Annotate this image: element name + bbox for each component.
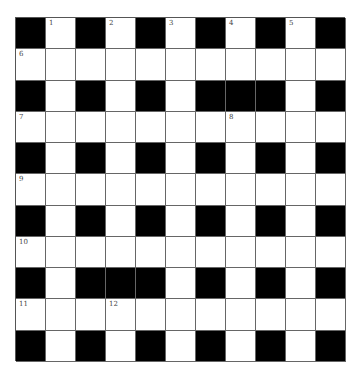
grid-cell[interactable] [316, 174, 346, 205]
grid-cell[interactable] [136, 112, 166, 143]
black-square [76, 18, 106, 49]
grid-cell[interactable] [136, 299, 166, 330]
grid-cell[interactable] [106, 174, 136, 205]
grid-cell[interactable] [166, 206, 196, 237]
clue-number: 10 [19, 239, 28, 246]
grid-cell[interactable] [166, 299, 196, 330]
grid-cell[interactable] [76, 49, 106, 80]
grid-cell[interactable]: 12 [106, 299, 136, 330]
grid-cell[interactable] [226, 49, 256, 80]
grid-cell[interactable]: 2 [106, 18, 136, 49]
grid-cell[interactable] [166, 112, 196, 143]
grid-cell[interactable] [226, 206, 256, 237]
grid-cell[interactable] [46, 237, 76, 268]
grid-cell[interactable] [256, 299, 286, 330]
grid-cell[interactable] [106, 112, 136, 143]
grid-cell[interactable] [46, 331, 76, 362]
grid-cell[interactable] [166, 268, 196, 299]
grid-cell[interactable] [166, 237, 196, 268]
grid-cell[interactable]: 3 [166, 18, 196, 49]
grid-cell[interactable] [46, 143, 76, 174]
grid-cell[interactable] [226, 174, 256, 205]
grid-cell[interactable] [136, 49, 166, 80]
grid-cell[interactable] [286, 143, 316, 174]
grid-cell[interactable] [196, 49, 226, 80]
grid-cell[interactable] [316, 49, 346, 80]
black-square [16, 18, 46, 49]
grid-cell[interactable] [256, 174, 286, 205]
grid-cell[interactable] [46, 268, 76, 299]
grid-cell[interactable] [256, 112, 286, 143]
grid-cell[interactable] [106, 237, 136, 268]
grid-cell[interactable]: 5 [286, 18, 316, 49]
grid-cell[interactable] [166, 143, 196, 174]
black-square [136, 206, 166, 237]
grid-cell[interactable] [196, 299, 226, 330]
grid-cell[interactable] [286, 268, 316, 299]
grid-cell[interactable] [76, 174, 106, 205]
black-square [316, 268, 346, 299]
grid-cell[interactable] [226, 143, 256, 174]
grid-cell[interactable] [286, 206, 316, 237]
clue-number: 5 [289, 20, 293, 27]
grid-cell[interactable] [196, 112, 226, 143]
grid-cell[interactable]: 4 [226, 18, 256, 49]
black-square [256, 268, 286, 299]
black-square [16, 206, 46, 237]
grid-cell[interactable] [286, 174, 316, 205]
grid-cell[interactable] [106, 331, 136, 362]
grid-cell[interactable] [196, 174, 226, 205]
grid-cell[interactable] [226, 268, 256, 299]
grid-cell[interactable] [46, 81, 76, 112]
grid-cell[interactable] [286, 112, 316, 143]
grid-cell[interactable]: 7 [16, 112, 46, 143]
grid-cell[interactable] [76, 112, 106, 143]
grid-cell[interactable] [286, 49, 316, 80]
clue-number: 3 [169, 20, 173, 27]
grid-cell[interactable] [46, 299, 76, 330]
grid-cell[interactable] [46, 112, 76, 143]
grid-cell[interactable] [46, 206, 76, 237]
grid-cell[interactable] [166, 331, 196, 362]
grid-cell[interactable] [256, 49, 286, 80]
grid-cell[interactable] [226, 331, 256, 362]
clue-number: 7 [19, 114, 23, 121]
grid-cell[interactable] [226, 299, 256, 330]
grid-cell[interactable] [46, 49, 76, 80]
grid-cell[interactable] [196, 237, 226, 268]
grid-cell[interactable] [166, 49, 196, 80]
grid-cell[interactable]: 11 [16, 299, 46, 330]
grid-cell[interactable]: 8 [226, 112, 256, 143]
grid-cell[interactable] [286, 237, 316, 268]
black-square [16, 268, 46, 299]
grid-cell[interactable]: 6 [16, 49, 46, 80]
grid-cell[interactable] [106, 49, 136, 80]
grid-cell[interactable] [46, 174, 76, 205]
grid-cell[interactable] [106, 81, 136, 112]
grid-cell[interactable]: 10 [16, 237, 46, 268]
grid-cell[interactable] [316, 299, 346, 330]
grid-cell[interactable] [166, 174, 196, 205]
grid-cell[interactable] [136, 237, 166, 268]
grid-cell[interactable] [316, 237, 346, 268]
grid-cell[interactable] [226, 237, 256, 268]
grid-cell[interactable] [76, 237, 106, 268]
grid-cell[interactable] [286, 81, 316, 112]
grid-cell[interactable] [136, 174, 166, 205]
grid-cell[interactable] [286, 299, 316, 330]
clue-number: 11 [19, 301, 28, 308]
grid-cell[interactable]: 1 [46, 18, 76, 49]
black-square [76, 143, 106, 174]
grid-cell[interactable] [106, 206, 136, 237]
grid-cell[interactable] [316, 112, 346, 143]
grid-cell[interactable] [106, 143, 136, 174]
grid-cell[interactable]: 9 [16, 174, 46, 205]
grid-cell[interactable] [256, 237, 286, 268]
black-square [256, 206, 286, 237]
grid-cell[interactable] [166, 81, 196, 112]
grid-cell[interactable] [76, 299, 106, 330]
black-square [196, 18, 226, 49]
clue-number: 1 [49, 20, 53, 27]
grid-cell[interactable] [286, 331, 316, 362]
black-square [316, 331, 346, 362]
